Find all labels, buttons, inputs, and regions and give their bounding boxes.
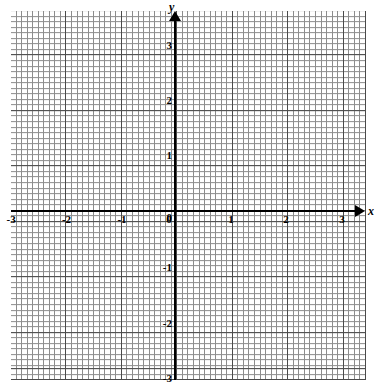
- y-tick-label: 0: [167, 212, 173, 223]
- y-tick-label: -1: [163, 262, 172, 273]
- y-axis-label: y: [169, 1, 174, 13]
- x-tick-label: -2: [62, 214, 71, 225]
- x-axis-right-arrow-icon: [355, 205, 365, 217]
- x-tick-label: 1: [228, 214, 234, 225]
- x-tick-label: -3: [7, 214, 16, 225]
- x-tick-label: 3: [339, 214, 345, 225]
- y-tick-label: 2: [167, 95, 173, 106]
- y-tick-label: 1: [167, 150, 173, 161]
- x-axis-label: x: [368, 205, 374, 217]
- y-axis-line: [174, 18, 176, 380]
- x-axis-line: [11, 210, 360, 212]
- y-tick-label: -3: [163, 373, 172, 384]
- y-tick-label: 3: [167, 40, 173, 51]
- coordinate-grid-figure: x y -3 -2 -1 0 1 2 3 3 2 1 0 -1 -2 -3: [0, 0, 377, 392]
- x-tick-label: -1: [117, 214, 126, 225]
- grid-plane: [11, 11, 366, 380]
- y-tick-label: -2: [163, 318, 172, 329]
- x-tick-label: 2: [283, 214, 289, 225]
